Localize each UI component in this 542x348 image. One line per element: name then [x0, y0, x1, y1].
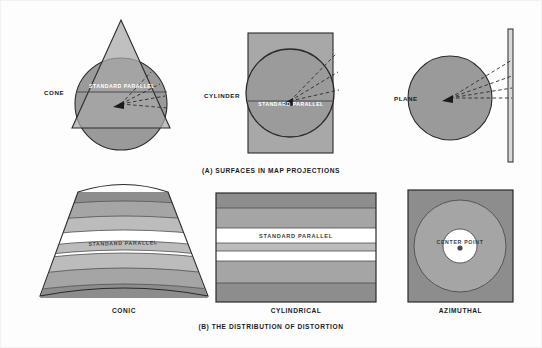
caption-b: (B) THE DISTRIBUTION OF DISTORTION	[0, 323, 542, 330]
figure-canvas: CONE STANDARD PARALLEL CYLINDER STANDARD…	[0, 0, 542, 348]
azimuthal-center-point-label: CENTER POINT	[425, 239, 495, 245]
azimuthal-label: AZIMUTHAL	[408, 307, 513, 314]
panel-b-azimuthal-graphic	[0, 0, 542, 348]
